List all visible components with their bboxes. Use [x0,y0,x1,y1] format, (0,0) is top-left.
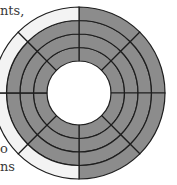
concentric-ring-diagram [0,0,177,185]
